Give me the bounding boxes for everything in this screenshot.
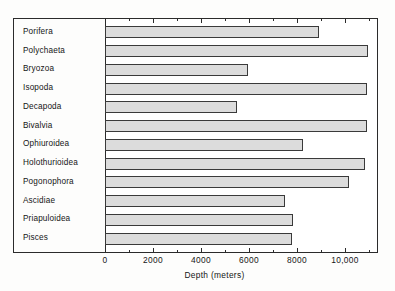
x-tick-label: 2000 — [143, 255, 163, 265]
x-tick-label: 6000 — [239, 255, 259, 265]
bar-chart-figure: PoriferaPolychaetaBryozoaIsopodaDecapoda… — [0, 0, 395, 291]
minor-tick — [225, 250, 226, 253]
x-tick-label: 0 — [103, 255, 108, 265]
x-axis-title-text: Depth (meters) — [184, 270, 244, 280]
category-label: Bryozoa — [13, 64, 101, 73]
category-label: Pogonophora — [13, 177, 101, 186]
major-tick — [105, 248, 106, 253]
minor-tick — [129, 250, 130, 253]
bar — [105, 176, 349, 188]
major-tick — [153, 248, 154, 253]
bar — [105, 158, 365, 170]
category-label: Polychaeta — [13, 46, 101, 55]
category-label: Holothurioidea — [13, 158, 101, 167]
major-tick — [153, 18, 154, 23]
minor-tick — [369, 18, 370, 21]
minor-tick — [369, 250, 370, 253]
category-label: Priapuloidea — [13, 214, 101, 223]
x-tick-label: 10,000 — [331, 255, 358, 265]
major-tick — [201, 248, 202, 253]
major-tick — [297, 248, 298, 253]
category-label: Porifera — [13, 27, 101, 36]
category-axis-labels: PoriferaPolychaetaBryozoaIsopodaDecapoda… — [13, 18, 105, 253]
bar — [105, 45, 368, 57]
major-tick — [249, 248, 250, 253]
bar — [105, 195, 285, 207]
minor-tick — [177, 250, 178, 253]
major-tick — [345, 248, 346, 253]
minor-tick — [321, 18, 322, 21]
category-label: Ascidiae — [13, 196, 101, 205]
x-axis-title: Depth (meters) — [0, 270, 395, 280]
major-tick — [297, 18, 298, 23]
bar — [105, 120, 367, 132]
minor-tick — [225, 18, 226, 21]
bar — [105, 214, 293, 226]
bar — [105, 101, 237, 113]
category-label: Pisces — [13, 233, 101, 242]
top-axis-ticks — [105, 18, 378, 24]
minor-tick — [321, 250, 322, 253]
bar — [105, 64, 248, 76]
major-tick — [105, 18, 106, 23]
category-label: Bivalvia — [13, 121, 101, 130]
bottom-axis-ticks — [105, 247, 378, 253]
x-tick-label: 4000 — [191, 255, 211, 265]
category-label: Isopoda — [13, 83, 101, 92]
bar-series — [105, 18, 378, 253]
bar — [105, 233, 292, 245]
major-tick — [201, 18, 202, 23]
minor-tick — [129, 18, 130, 21]
minor-tick — [177, 18, 178, 21]
x-axis-tick-labels: 0200040006000800010,000 — [105, 255, 378, 269]
category-label: Decapoda — [13, 102, 101, 111]
minor-tick — [273, 250, 274, 253]
bar — [105, 139, 303, 151]
major-tick — [249, 18, 250, 23]
category-label: Ophiuroidea — [13, 139, 101, 148]
x-tick-label: 8000 — [287, 255, 307, 265]
bar — [105, 83, 367, 95]
minor-tick — [273, 18, 274, 21]
bar — [105, 26, 319, 38]
major-tick — [345, 18, 346, 23]
